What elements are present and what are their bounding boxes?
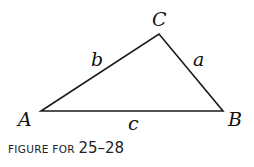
side-label-c: c — [128, 114, 139, 133]
figure-caption: FIGURE FOR 25–28 — [8, 140, 124, 156]
vertex-label-c: C — [152, 10, 167, 29]
vertex-label-b: B — [228, 110, 242, 129]
vertex-label-a: A — [18, 110, 32, 129]
caption-prefix: FIGURE FOR — [8, 143, 78, 155]
side-label-b: b — [91, 50, 103, 69]
side-label-a: a — [193, 50, 204, 69]
triangle-abc — [41, 34, 223, 111]
caption-range: 25–28 — [78, 139, 124, 157]
